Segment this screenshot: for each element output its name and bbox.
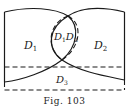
label-d3: D3 — [55, 74, 68, 86]
figure-caption: Fig. 103 — [44, 96, 86, 106]
label-d1: D1 — [23, 39, 37, 53]
label-d2: D2 — [93, 39, 107, 53]
label-d1d2: D1D2 — [53, 31, 78, 43]
figure-diagram: D1 D1D2 D2 D3 Fig. 103 — [0, 0, 129, 110]
